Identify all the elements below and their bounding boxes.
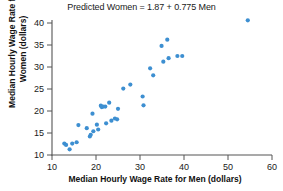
data-point [141,94,145,98]
data-point [151,73,155,77]
data-point [70,141,74,145]
data-point [148,66,152,70]
data-point [68,147,72,151]
data-point [109,119,113,123]
data-point [115,117,119,121]
x-axis-ticks: 102030405060 [47,155,277,172]
y-tick-label: 30 [34,62,44,72]
data-point [128,83,132,87]
x-tick-label: 50 [223,162,233,172]
y-tick-label: 15 [34,128,44,138]
data-point [121,86,125,90]
data-point [103,105,107,109]
plot-area: 10152025303540 102030405060 [0,0,283,191]
x-tick-label: 10 [47,162,57,172]
x-tick-label: 20 [91,162,101,172]
data-point [85,126,89,130]
data-point [165,38,169,42]
data-point [91,129,95,133]
data-point [167,56,171,60]
y-tick-label: 40 [34,18,44,28]
data-point [95,123,99,127]
x-tick-label: 60 [267,162,277,172]
data-point [116,107,120,111]
y-tick-label: 35 [34,40,44,50]
data-point [104,121,108,125]
data-point [159,44,163,48]
data-point [76,123,80,127]
data-point [141,103,145,107]
data-point [90,112,94,116]
data-point [64,143,68,147]
y-tick-label: 25 [34,84,44,94]
data-point [89,133,93,137]
x-tick-label: 40 [179,162,189,172]
data-point [246,18,250,22]
y-tick-label: 10 [34,150,44,160]
data-point [107,101,111,105]
y-axis-ticks: 10152025303540 [34,18,52,160]
x-tick-label: 30 [135,162,145,172]
data-point [96,127,100,131]
scatter-plot-figure: Predicted Women = 1.87 + 0.775 Men Media… [0,0,283,191]
data-point [161,60,165,64]
data-points [62,18,250,151]
data-point [175,54,179,58]
data-point [75,140,79,144]
data-point [180,54,184,58]
y-tick-label: 20 [34,106,44,116]
